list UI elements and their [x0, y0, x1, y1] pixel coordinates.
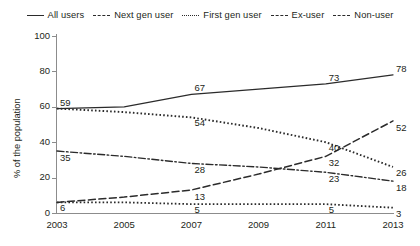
data-label: 67 — [194, 82, 205, 93]
data-label: 32 — [329, 157, 340, 168]
data-label: 59 — [60, 97, 71, 108]
series-line-all-users — [57, 75, 393, 109]
data-label: 28 — [194, 164, 205, 175]
data-label: 5 — [329, 204, 334, 215]
series-line-first-gen-user — [57, 109, 393, 167]
series-line-next-gen-user — [57, 121, 393, 202]
data-label: 73 — [329, 72, 340, 83]
data-label: 78 — [396, 63, 407, 74]
data-label: 54 — [194, 117, 205, 128]
data-label: 3 — [396, 208, 401, 219]
data-label: 26 — [396, 167, 407, 178]
data-label: 23 — [329, 173, 340, 184]
data-label: 18 — [396, 182, 407, 193]
line-chart: All usersNext gen userFirst gen userEx-u… — [0, 0, 420, 246]
series-line-non-user — [57, 202, 393, 207]
data-label: 6 — [60, 202, 65, 213]
data-label: 35 — [60, 152, 71, 163]
data-label: 5 — [194, 204, 199, 215]
data-label: 52 — [396, 122, 407, 133]
data-label: 13 — [194, 191, 205, 202]
data-label: 40 — [329, 142, 340, 153]
series-line-ex-user — [57, 151, 393, 181]
